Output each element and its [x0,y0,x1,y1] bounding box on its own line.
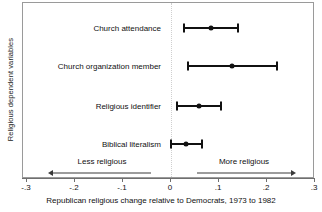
ci-cap-low [187,62,189,71]
ci-cap-high [276,62,278,71]
x-axis-line [22,178,314,179]
x-axis-tick [122,178,123,182]
plot-area: Church attendanceChurch organization mem… [22,2,314,178]
x-axis-tick [170,178,171,182]
estimate-point-marker [208,26,213,31]
forest-plot-figure: Religious dependent variables Church att… [0,0,322,212]
ci-cap-high [220,102,222,111]
x-axis-tick [26,178,27,182]
ci-cap-low [176,102,178,111]
x-axis-title: Republican religious change relative to … [0,196,322,205]
x-axis-tick-label: -.1 [117,183,126,192]
direction-arrow-line [197,173,291,174]
estimate-point-marker [196,104,201,109]
direction-arrow-head-right [291,170,296,176]
ci-cap-high [237,24,239,33]
category-label: Church attendance [93,24,161,33]
x-axis-tick-label: .1 [215,183,222,192]
x-axis-tick [74,178,75,182]
x-axis-tick-label: -.3 [21,183,30,192]
x-axis-tick-label: .2 [263,183,270,192]
x-axis-tick [218,178,219,182]
estimate-point-marker [230,64,235,69]
category-label: Biblical literalism [102,140,161,149]
estimate-point-marker [184,142,189,147]
category-label: Religious identifier [96,102,161,111]
direction-annotation-label: More religious [219,157,269,166]
ci-cap-low [183,24,185,33]
x-axis-tick-label: .3 [311,183,318,192]
zero-reference-line [171,3,172,179]
y-axis-title: Religious dependent variables [6,5,15,175]
x-axis-tick [266,178,267,182]
direction-arrow-head-left [48,170,53,176]
direction-annotation-label: Less religious [78,157,127,166]
x-axis-tick-label: 0 [168,183,172,192]
category-label: Church organization member [58,62,161,71]
x-axis-tick-label: -.2 [69,183,78,192]
direction-arrow-line [53,173,151,174]
ci-cap-low [170,140,172,149]
ci-cap-high [201,140,203,149]
x-axis-tick [314,178,315,182]
